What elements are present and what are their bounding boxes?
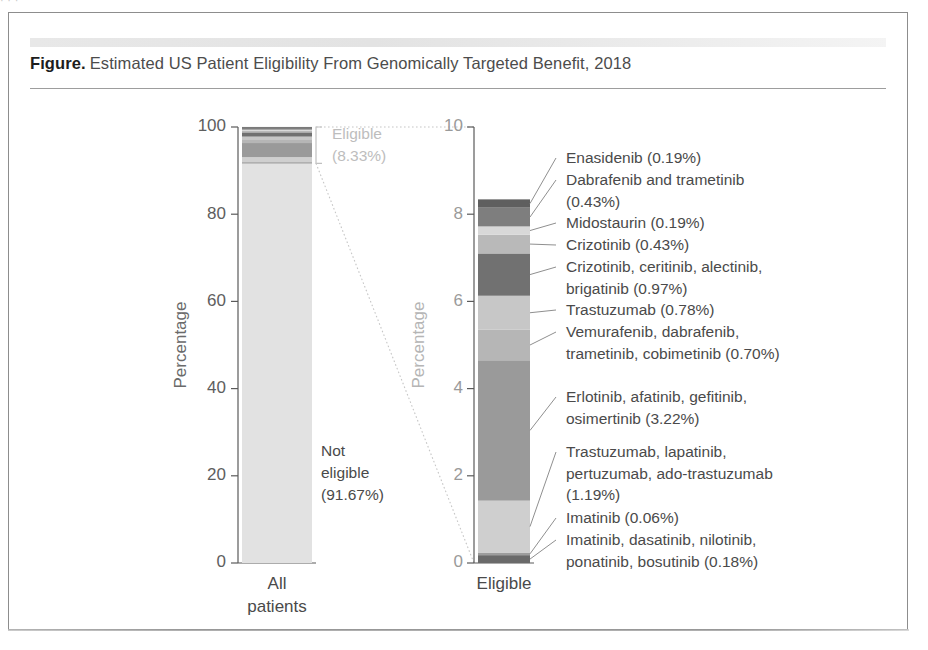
callout-leader-line bbox=[530, 452, 556, 527]
callout-leader-line bbox=[530, 180, 556, 217]
right-segment-imatinib-dasatinib-nilotinib-ponatinib-bosutinib bbox=[478, 555, 530, 563]
segment-callout-line: Midostaurin (0.19%) bbox=[566, 214, 705, 231]
left-category-label: patients bbox=[247, 597, 307, 616]
segment-callout-line: (1.19%) bbox=[566, 486, 620, 503]
left-segment-midostaurin bbox=[242, 130, 312, 131]
chart-area: 020406080100PercentageAllpatientsEligibl… bbox=[0, 0, 928, 650]
left-segment-trastuzumab bbox=[242, 137, 312, 140]
segment-callout-line: Erlotinib, afatinib, gefitinib, bbox=[566, 388, 747, 405]
callout-leader-line bbox=[530, 518, 556, 554]
segment-callout-line: Imatinib (0.06%) bbox=[566, 509, 679, 526]
left-segment-dabrafenib-and-trametinib bbox=[242, 128, 312, 130]
segment-callout-line: Dabrafenib and trametinib bbox=[566, 171, 744, 188]
left-segment-crizotinib-ceritinib-alectinib-brigatinib bbox=[242, 132, 312, 136]
left-segment-erlotinib-afatinib-gefitinib-osimertinib bbox=[242, 143, 312, 157]
left-y-tick-label: 100 bbox=[198, 116, 226, 135]
left-y-tick-label: 20 bbox=[207, 465, 226, 484]
left-y-tick-label: 60 bbox=[207, 291, 226, 310]
segment-callout-line: Vemurafenib, dabrafenib, bbox=[566, 323, 739, 340]
stacked-bar-chart: 020406080100PercentageAllpatientsEligibl… bbox=[0, 0, 928, 650]
figure-page: · · · Figure.Estimated US Patient Eligib… bbox=[0, 0, 928, 650]
segment-callout-line: brigatinib (0.97%) bbox=[566, 280, 687, 297]
right-segment-imatinib bbox=[478, 553, 530, 556]
segment-callout-line: Trastuzumab (0.78%) bbox=[566, 301, 714, 318]
left-segment-imatinib bbox=[242, 162, 312, 163]
callout-leader-line bbox=[530, 158, 556, 204]
left-segment-vemurafenib-dabrafenib-trametinib-cobimetinib bbox=[242, 140, 312, 143]
callout-leader-line bbox=[530, 267, 556, 275]
callout-leader-line bbox=[530, 540, 556, 559]
right-category-label: Eligible bbox=[477, 574, 532, 593]
callout-leader-line bbox=[530, 332, 556, 345]
leader-lines bbox=[530, 158, 556, 559]
segment-callout-line: pertuzumab, ado-trastuzumab bbox=[566, 465, 773, 482]
segment-callout-line: Enasidenib (0.19%) bbox=[566, 149, 701, 166]
right-segment-midostaurin bbox=[478, 226, 530, 234]
all-patients-panel: 020406080100PercentageAllpatientsEligibl… bbox=[171, 116, 386, 616]
connector-bottom bbox=[316, 163, 474, 563]
segment-callout-line: ponatinib, bosutinib (0.18%) bbox=[566, 553, 758, 570]
left-segment-enasidenib bbox=[242, 127, 312, 128]
right-segment-crizotinib bbox=[478, 235, 530, 254]
segment-callout-line: Crizotinib, ceritinib, alectinib, bbox=[566, 258, 762, 275]
right-segment-trastuzumab bbox=[478, 296, 530, 330]
eligible-bracket bbox=[316, 127, 322, 163]
not-eligible-callout-line: Not bbox=[321, 442, 346, 459]
left-y-tick-label: 0 bbox=[217, 552, 226, 571]
callout-leader-line bbox=[530, 244, 556, 245]
left-y-tick-label: 40 bbox=[207, 378, 226, 397]
segment-callout-line: Trastuzumab, lapatinib, bbox=[566, 443, 727, 460]
left-y-axis-title: Percentage bbox=[171, 302, 190, 389]
segment-callout-line: osimertinib (3.22%) bbox=[566, 410, 700, 427]
left-segment-crizotinib bbox=[242, 130, 312, 132]
left-segment-not-eligible bbox=[242, 163, 312, 563]
right-segment-crizotinib-ceritinib-alectinib-brigatinib bbox=[478, 253, 530, 295]
segment-callouts: Enasidenib (0.19%)Dabrafenib and trameti… bbox=[566, 149, 780, 570]
callout-leader-line bbox=[530, 397, 556, 430]
right-segment-vemurafenib-dabrafenib-trametinib-cobimetinib bbox=[478, 330, 530, 361]
right-segment-dabrafenib-and-trametinib bbox=[478, 208, 530, 227]
right-y-tick-label: 4 bbox=[454, 378, 463, 397]
right-segment-enasidenib bbox=[478, 199, 530, 207]
segment-callout-line: (0.43%) bbox=[566, 193, 620, 210]
eligible-callout-line: Eligible bbox=[332, 125, 382, 142]
right-y-axis-title: Percentage bbox=[409, 302, 428, 389]
not-eligible-callout-line: eligible bbox=[321, 464, 369, 481]
not-eligible-callout-line: (91.67%) bbox=[321, 486, 384, 503]
right-y-tick-label: 8 bbox=[454, 204, 463, 223]
callout-leader-line bbox=[530, 310, 556, 313]
eligible-panel: 0246810PercentageEligible bbox=[409, 116, 534, 593]
right-segment-trastuzumab-lapatinib-pertuzumab-ado-trastuzumab bbox=[478, 501, 530, 553]
left-category-label: All bbox=[268, 574, 287, 593]
right-segment-erlotinib-afatinib-gefitinib-osimertinib bbox=[478, 360, 530, 500]
right-y-tick-label: 0 bbox=[454, 552, 463, 571]
segment-callout-line: trametinib, cobimetinib (0.70%) bbox=[566, 345, 780, 362]
segment-callout-line: Crizotinib (0.43%) bbox=[566, 236, 689, 253]
segment-callout-line: Imatinib, dasatinib, nilotinib, bbox=[566, 531, 756, 548]
callout-leader-line bbox=[530, 223, 556, 231]
left-segment-trastuzumab-lapatinib-pertuzumab-ado-trastuzumab bbox=[242, 157, 312, 162]
right-y-tick-label: 6 bbox=[454, 291, 463, 310]
left-y-tick-label: 80 bbox=[207, 204, 226, 223]
eligible-callout-line: (8.33%) bbox=[332, 147, 386, 164]
right-y-tick-label: 2 bbox=[454, 465, 463, 484]
right-y-tick-label: 10 bbox=[444, 116, 463, 135]
